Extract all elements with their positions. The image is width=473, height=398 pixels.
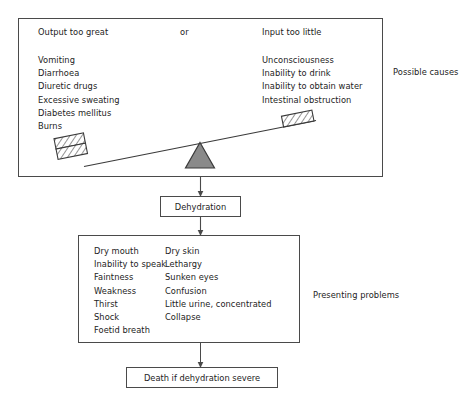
list-item: Inability to obtain water — [262, 80, 363, 93]
list-item: Inability to drink — [262, 67, 363, 80]
causes-left-list: Vomiting Diarrhoea Diuretic drugs Excess… — [38, 54, 120, 133]
causes-right-list: Unconsciousness Inability to drink Inabi… — [262, 54, 363, 107]
list-item: Weakness — [94, 285, 166, 298]
list-item: Diarrhoea — [38, 67, 120, 80]
list-item: Shock — [94, 311, 166, 324]
list-item: Dry skin — [165, 245, 272, 258]
list-item: Excessive sweating — [38, 94, 120, 107]
list-item: Burns — [38, 120, 120, 133]
list-item: Faintness — [94, 271, 166, 284]
list-item: Sunken eyes — [165, 271, 272, 284]
list-item: Intestinal obstruction — [262, 94, 363, 107]
causes-heading-output: Output too great — [38, 26, 108, 39]
problems-right-list: Dry skin Lethargy Sunken eyes Confusion … — [165, 245, 272, 324]
list-item: Confusion — [165, 285, 272, 298]
death-outcome-box: Death if dehydration severe — [126, 367, 278, 388]
presenting-problems-side-label: Presenting problems — [313, 289, 399, 302]
list-item: Inability to speak — [94, 258, 166, 271]
causes-heading-input: Input too little — [262, 26, 322, 39]
list-item: Lethargy — [165, 258, 272, 271]
list-item: Unconsciousness — [262, 54, 363, 67]
list-item: Diuretic drugs — [38, 80, 120, 93]
dehydration-label: Dehydration — [175, 202, 226, 212]
list-item: Dry mouth — [94, 245, 166, 258]
causes-heading-conjunction: or — [180, 26, 189, 39]
list-item: Vomiting — [38, 54, 120, 67]
dehydration-flow-diagram: Output too great or Input too little Vom… — [0, 0, 473, 398]
list-item: Diabetes mellitus — [38, 107, 120, 120]
list-item: Foetid breath — [94, 324, 166, 337]
list-item: Little urine, concentrated — [165, 298, 272, 311]
list-item: Thirst — [94, 298, 166, 311]
death-outcome-label: Death if dehydration severe — [144, 373, 260, 383]
problems-left-list: Dry mouth Inability to speak Faintness W… — [94, 245, 166, 337]
possible-causes-side-label: Possible causes — [393, 66, 458, 79]
dehydration-box: Dehydration — [160, 196, 241, 217]
list-item: Collapse — [165, 311, 272, 324]
